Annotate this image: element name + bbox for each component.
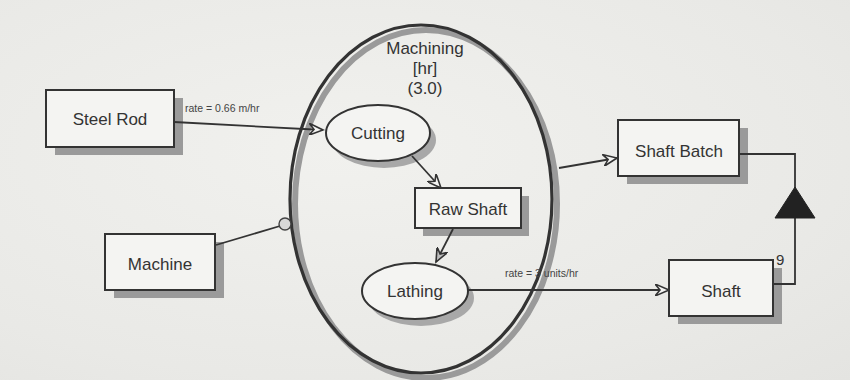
aggregation-triangle-icon [775,187,815,218]
lathing-rate-label: rate = 3 units/hr [505,267,579,279]
object-raw-shaft[interactable]: Raw Shaft [415,188,529,236]
object-machine[interactable]: Machine [105,234,224,298]
shaft-batch-label: Shaft Batch [635,142,723,161]
link-machining-to-shaft-batch[interactable] [559,158,617,168]
object-steel-rod[interactable]: Steel Rod [46,90,183,155]
instrument-link-line [216,226,280,245]
link-lathing-to-shaft[interactable]: rate = 3 units/hr [468,267,669,290]
instrument-circle-icon [279,218,291,230]
opm-diagram: Machining [hr] (3.0) Steel Rod rate = 0.… [0,0,850,380]
lathing-label: Lathing [387,282,443,301]
object-shaft[interactable]: Shaft [669,260,782,324]
steel-rod-label: Steel Rod [73,110,148,129]
machining-process-name: Machining [386,39,464,58]
diagram-canvas: Machining [hr] (3.0) Steel Rod rate = 0.… [0,0,850,380]
subprocess-cutting[interactable]: Cutting [326,105,436,168]
machine-label: Machine [128,255,192,274]
cutting-label: Cutting [351,124,405,143]
shaft-label: Shaft [701,282,741,301]
machining-process-unit: [hr] [413,59,438,78]
link-cutting-to-raw-shaft[interactable] [412,156,441,188]
subprocess-lathing[interactable]: Lathing [362,263,474,326]
raw-shaft-label: Raw Shaft [429,200,508,219]
object-shaft-batch[interactable]: Shaft Batch [618,120,748,184]
machining-process-duration: (3.0) [408,79,443,98]
steel-rod-rate-label: rate = 0.66 m/hr [185,102,260,114]
instrument-link-machine-to-machining[interactable] [216,218,291,245]
aggregation-multiplicity: 9 [776,251,784,268]
